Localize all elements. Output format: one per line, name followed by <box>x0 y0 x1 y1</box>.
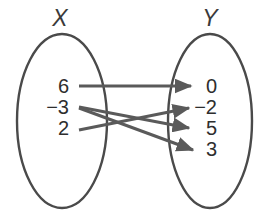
range-element: −2 <box>194 96 217 118</box>
range-element: 3 <box>206 138 217 160</box>
domain-element: −3 <box>46 96 69 118</box>
domain-set-label: X <box>51 5 69 31</box>
mapping-diagram: X Y 6 −3 2 0 −2 5 3 <box>0 0 260 216</box>
mapping-arrow-neg3-to-3 <box>79 108 193 150</box>
range-element: 0 <box>206 75 217 97</box>
range-element: 5 <box>206 117 217 139</box>
range-set-label: Y <box>202 5 219 31</box>
domain-element: 2 <box>58 117 69 139</box>
domain-element: 6 <box>58 75 69 97</box>
